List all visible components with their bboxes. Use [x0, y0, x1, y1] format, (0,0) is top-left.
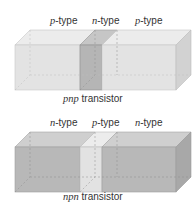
npn-caption: npn transistor	[63, 191, 123, 202]
top-label-left: p-type	[50, 15, 77, 26]
pnp-block	[15, 30, 191, 90]
top-label-middle: n-type	[92, 15, 119, 26]
npn-block	[15, 132, 191, 192]
bottom-label-middle: p-type	[92, 117, 119, 128]
bottom-label-left: n-type	[50, 117, 77, 128]
pnp-caption: pnp transistor	[63, 93, 123, 104]
bottom-label-right: n-type	[135, 117, 162, 128]
top-label-right: p-type	[135, 15, 162, 26]
